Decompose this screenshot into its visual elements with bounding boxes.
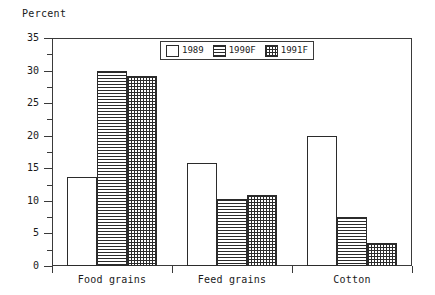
- legend: 19891990F1991F: [160, 41, 314, 60]
- legend-label: 1991F: [281, 46, 308, 55]
- y-axis-tick: [44, 233, 52, 234]
- y-axis-minor-tick: [47, 217, 52, 218]
- x-axis-tick: [292, 266, 293, 273]
- legend-entry: 1990F: [213, 45, 256, 57]
- y-axis-tick-label: 15: [27, 163, 39, 173]
- y-axis-tick: [44, 168, 52, 169]
- bar-feed-grains-1991F: [247, 195, 277, 266]
- y-axis-tick: [44, 103, 52, 104]
- x-axis-category-label: Food grains: [52, 274, 172, 285]
- blank-swatch: [166, 45, 179, 57]
- grid-swatch: [265, 45, 278, 57]
- y-axis-tick: [44, 71, 52, 72]
- x-axis-tick: [172, 266, 173, 273]
- y-axis-tick-label: 20: [27, 131, 39, 141]
- legend-label: 1989: [182, 46, 204, 55]
- y-axis-tick-label: 30: [27, 66, 39, 76]
- legend-label: 1990F: [229, 46, 256, 55]
- y-axis-minor-tick: [47, 185, 52, 186]
- bar-cotton-1991F: [367, 243, 397, 266]
- bar-food-grains-1991F: [127, 76, 157, 266]
- x-axis-tick: [52, 266, 53, 273]
- y-axis-minor-tick: [47, 87, 52, 88]
- bar-food-grains-1990F: [97, 71, 127, 266]
- bar-food-grains-1989: [67, 177, 97, 266]
- y-axis-tick: [44, 266, 52, 267]
- y-axis-tick-label: 5: [33, 228, 39, 238]
- bar-feed-grains-1990F: [217, 199, 247, 266]
- y-axis-minor-tick: [47, 250, 52, 251]
- bar-cotton-1989: [307, 136, 337, 266]
- bar-feed-grains-1989: [187, 163, 217, 266]
- y-axis-tick-label: 0: [33, 261, 39, 271]
- y-axis-tick: [44, 201, 52, 202]
- y-axis-tick-label: 35: [27, 33, 39, 43]
- bar-cotton-1990F: [337, 217, 367, 266]
- x-axis-tick: [412, 266, 413, 273]
- y-axis-minor-tick: [47, 152, 52, 153]
- y-axis-tick-label: 10: [27, 196, 39, 206]
- x-axis-category-label: Feed grains: [172, 274, 292, 285]
- y-axis-title: Percent: [22, 8, 66, 19]
- y-axis-minor-tick: [47, 54, 52, 55]
- y-axis-tick-label: 25: [27, 98, 39, 108]
- bar-chart: Percent 05101520253035 Food grainsFeed g…: [0, 0, 435, 295]
- legend-entry: 1991F: [265, 45, 308, 57]
- legend-entry: 1989: [166, 45, 204, 57]
- y-axis-tick: [44, 38, 52, 39]
- y-axis-minor-tick: [47, 119, 52, 120]
- x-axis-category-label: Cotton: [292, 274, 412, 285]
- y-axis-tick: [44, 136, 52, 137]
- hlines-swatch: [213, 45, 226, 57]
